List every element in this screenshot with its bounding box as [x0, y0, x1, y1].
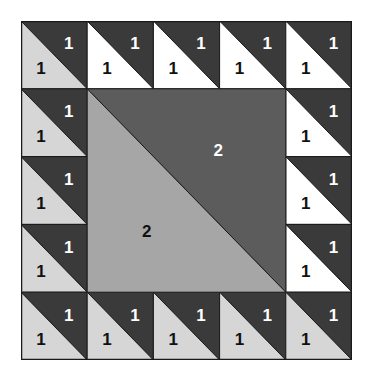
piece-label-upper: 1	[329, 306, 338, 325]
quilt-block-diagram: 1111111111111111111111111111111122	[21, 21, 352, 360]
piece-label-lower: 1	[301, 194, 310, 213]
piece-label-upper: 1	[196, 34, 205, 53]
piece-label-lower: 1	[36, 59, 45, 78]
piece-label-upper: 1	[130, 306, 139, 325]
piece-label-upper: 1	[64, 238, 73, 257]
piece-label-upper: 1	[196, 306, 205, 325]
piece-label-lower: 1	[301, 127, 310, 146]
piece-label-upper: 1	[64, 102, 73, 121]
piece-label-lower: 1	[301, 330, 310, 349]
piece-label-upper: 1	[329, 34, 338, 53]
piece-label-lower: 1	[102, 59, 111, 78]
piece-label-lower: 1	[301, 59, 310, 78]
piece-label-upper: 1	[64, 34, 73, 53]
center-label-upper: 2	[214, 141, 223, 160]
piece-label-lower: 1	[36, 330, 45, 349]
piece-label-lower: 1	[102, 330, 111, 349]
piece-label-upper: 1	[263, 306, 272, 325]
piece-label-lower: 1	[235, 330, 244, 349]
piece-label-upper: 1	[64, 306, 73, 325]
piece-label-lower: 1	[301, 262, 310, 281]
piece-label-lower: 1	[36, 127, 45, 146]
piece-label-lower: 1	[36, 194, 45, 213]
piece-label-lower: 1	[36, 262, 45, 281]
piece-label-upper: 1	[329, 102, 338, 121]
piece-label-upper: 1	[329, 170, 338, 189]
piece-label-lower: 1	[169, 59, 178, 78]
piece-label-lower: 1	[169, 330, 178, 349]
piece-label-upper: 1	[329, 238, 338, 257]
quilt-svg: 1111111111111111111111111111111122	[21, 21, 352, 360]
piece-label-upper: 1	[130, 34, 139, 53]
piece-label-upper: 1	[64, 170, 73, 189]
center-label-lower: 2	[142, 222, 151, 241]
piece-label-upper: 1	[263, 34, 272, 53]
piece-label-lower: 1	[235, 59, 244, 78]
